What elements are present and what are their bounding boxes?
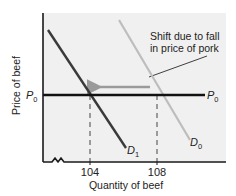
demand-shift-diagram: Price of beef P0 P0 D1 D0 Shift due to f…: [0, 0, 236, 196]
annotation-line-1: Shift due to fall: [150, 30, 219, 42]
y-axis-label: Price of beef: [10, 56, 22, 115]
price-label-left: P0: [26, 89, 38, 104]
annotation-line-2: in price of pork: [150, 42, 220, 54]
x-tick-label-108: 108: [148, 166, 166, 178]
x-tick-label-104: 104: [81, 166, 99, 178]
x-axis-label: Quantity of beef: [89, 179, 163, 191]
